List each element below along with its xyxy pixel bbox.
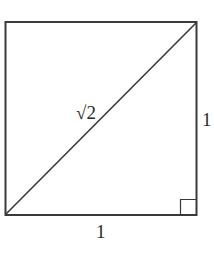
diagonal-label: √2 [76,102,96,123]
diagonal-line [6,23,196,214]
bottom-side-label: 1 [96,221,106,242]
right-side-label: 1 [202,109,212,130]
square-diagram: √2 1 1 [0,0,214,253]
right-angle-marker [181,200,197,216]
